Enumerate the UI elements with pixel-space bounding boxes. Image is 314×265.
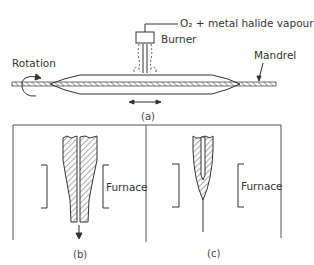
part-b-preform-draw [41, 136, 109, 239]
gas-feed-line [145, 24, 178, 32]
rotation-label: Rotation [12, 58, 56, 69]
caption-c: (c) [207, 249, 220, 259]
diagram-canvas [0, 0, 314, 265]
preform-half-left [63, 136, 77, 222]
furnace-label-b: Furnace [106, 182, 148, 193]
flame-icon [134, 44, 156, 72]
gas-feed-label: O₂ + metal halide vapours [180, 18, 314, 29]
furnace-label-c: Furnace [241, 181, 283, 192]
furnace-bracket-left [41, 165, 47, 208]
burner-icon [136, 32, 154, 43]
pull-arrow-icon [76, 233, 82, 239]
mandrel-label: Mandrel [254, 50, 296, 61]
preform-half-right [80, 136, 97, 222]
furnace-bracket-left [172, 164, 179, 207]
traverse-arrow-icon [129, 100, 161, 104]
caption-a: (a) [141, 112, 155, 122]
part-c-fibre-draw [172, 136, 244, 232]
burner-label: Burner [161, 34, 196, 45]
caption-b: (b) [73, 250, 87, 260]
mandrel-rod [12, 82, 276, 86]
